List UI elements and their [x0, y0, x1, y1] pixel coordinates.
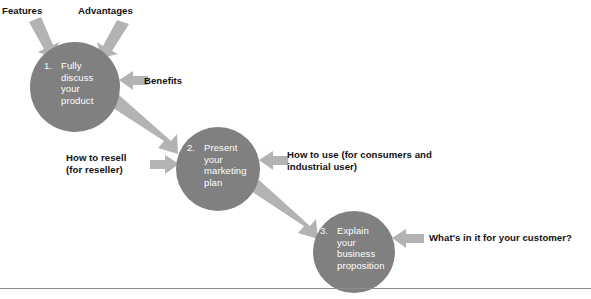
arrow-how-to-resell — [150, 155, 179, 174]
label-how-to-use: How to use (for consumers and industrial… — [287, 149, 432, 172]
arrow-whats-in-it — [392, 229, 424, 248]
connector-2-to-3 — [248, 180, 318, 239]
node-1-number: 1. — [44, 60, 52, 72]
bottom-rule — [0, 288, 591, 289]
label-how-to-resell: How to resell (for reseller) — [66, 152, 126, 175]
connector-1-to-2 — [107, 95, 178, 154]
label-advantages: Advantages — [78, 5, 133, 17]
flow-diagram: 1. Fullydiscussyourproduct 2. Presentyou… — [0, 0, 591, 299]
label-benefits: Benefits — [144, 75, 182, 87]
node-3-number: 3. — [320, 225, 328, 237]
arrow-how-to-use — [259, 151, 288, 170]
label-whats-in-it: What's in it for your customer? — [429, 232, 572, 244]
label-features: Features — [2, 5, 42, 17]
node-2-number: 2. — [187, 142, 195, 154]
node-2-circle — [176, 127, 260, 211]
node-3-circle — [313, 211, 395, 293]
node-1-circle — [30, 42, 120, 132]
